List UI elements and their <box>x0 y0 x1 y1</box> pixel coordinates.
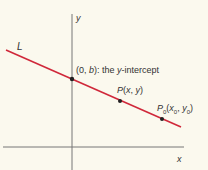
point-P <box>118 99 122 103</box>
x-axis-label: x <box>177 155 182 164</box>
line-L <box>6 50 181 127</box>
point-P0-label: P0(x0, y0) <box>157 104 193 115</box>
y-axis-label: y <box>76 14 81 23</box>
y-intercept-label: (0, b): the y-intercept <box>76 66 159 75</box>
y-intercept-point <box>70 77 74 81</box>
diagram-canvas <box>0 0 208 170</box>
point-P0 <box>160 117 164 121</box>
line-label: L <box>17 42 23 52</box>
point-P-label: P(x, y) <box>117 86 143 95</box>
